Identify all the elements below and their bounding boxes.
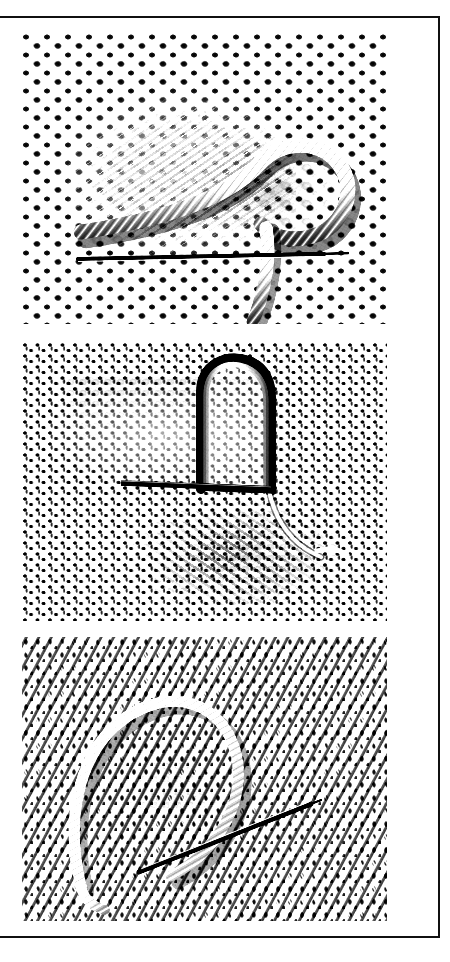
figure-panel-2[interactable] — [21, 341, 388, 622]
figure-panel-3[interactable] — [21, 636, 388, 922]
figure-plate — [21, 32, 388, 922]
figure-panel-1[interactable] — [21, 32, 388, 325]
fabric-dense-knit — [21, 636, 388, 922]
drape-diagonal-2 — [101, 481, 361, 622]
lifted-band-2 — [31, 377, 311, 495]
pleat-diagonal-weave-1 — [56, 86, 312, 268]
scanned-page-sheet — [0, 16, 440, 938]
